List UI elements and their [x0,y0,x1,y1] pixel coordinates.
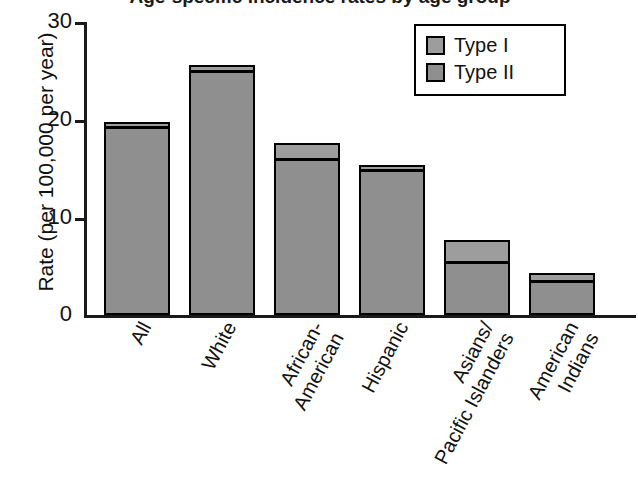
x-axis-tick-labels: All White African- American Hispanic Asi… [84,318,638,468]
x-label-asians-pacific-islanders: Asians/ Pacific Islanders [410,318,519,468]
bar-african-american-type-i [274,143,340,160]
type-ii-swatch-icon [426,63,445,82]
y-axis-tick-10 [75,218,85,221]
x-label-hispanic-line1: Hispanic [357,318,412,396]
x-label-white-line1: White [197,318,240,373]
bar-american-indians-type-ii [529,281,595,315]
legend-item-type-ii: Type II [426,59,564,86]
y-tick-label-10: 10 [48,204,72,230]
chart-container: Age-specific incidence rates by age grou… [0,0,638,481]
x-label-american-indians: American Indians [523,318,603,414]
y-tick-label-20: 20 [48,106,72,132]
x-label-african-american: African- American [268,318,348,414]
x-label-all: All [126,318,157,348]
bar-white-type-ii [189,71,255,315]
chart-legend: Type I Type II [414,24,566,96]
bar-asians-pacific-islanders-type-ii [444,262,510,315]
x-label-all-line1: All [126,318,156,348]
bar-all [104,22,170,315]
legend-label-type-i: Type I [454,34,508,57]
bar-african-american [274,22,340,315]
legend-label-type-ii: Type II [454,61,514,84]
legend-item-type-i: Type I [426,32,564,59]
bar-asians-pacific-islanders-type-i [444,240,510,263]
bar-hispanic-type-ii [359,170,425,315]
type-i-swatch-icon [426,36,445,55]
x-label-hispanic: Hispanic [357,318,413,397]
x-label-white: White [197,318,241,374]
y-axis-tick-30 [75,22,85,25]
y-tick-label-30: 30 [48,8,72,34]
y-axis-tick-20 [75,120,85,123]
y-tick-label-0: 0 [60,301,72,327]
y-axis-line [84,22,87,318]
bar-white [189,22,255,315]
chart-title: Age-specific incidence rates by age grou… [60,0,580,8]
bar-african-american-type-ii [274,159,340,315]
bar-all-type-ii [104,127,170,315]
y-axis-tick-labels: 30 20 10 0 [0,22,80,322]
